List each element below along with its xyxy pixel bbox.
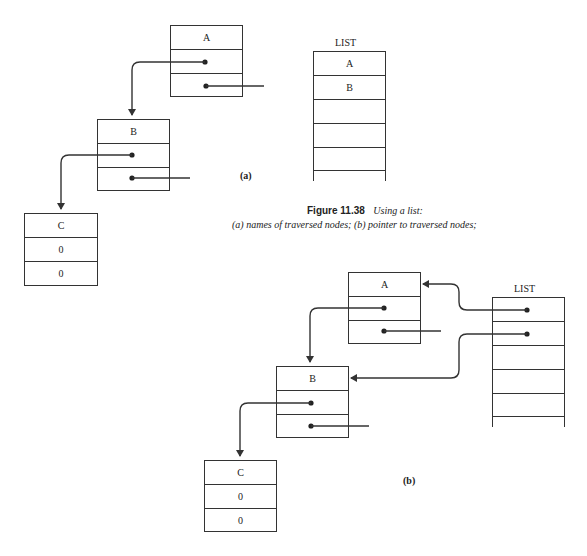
pointer-arrows: [0, 0, 587, 556]
